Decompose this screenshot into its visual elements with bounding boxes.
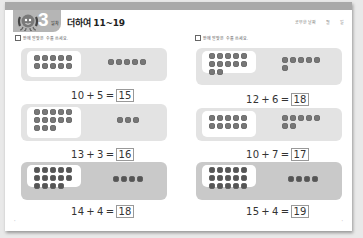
- ten-frame-dots: [34, 109, 73, 132]
- answer-box-icon: [195, 35, 201, 41]
- octopus-mascot-icon: [17, 11, 39, 31]
- left-page-marker: -: [14, 218, 15, 223]
- day-label: 일: [340, 19, 344, 25]
- left-instruction: 안에 알맞은 수를 쓰세요.: [15, 35, 68, 41]
- extra-dots: [113, 176, 152, 183]
- dot-panel-6: [196, 162, 342, 200]
- answer-box[interactable]: 17: [291, 148, 308, 161]
- worksheet-page: 3 일차 더하여 11~19 공부한 날짜 월 일 안에 알맞은 수를 쓰세요.…: [5, 2, 352, 231]
- instruction-text: 안에 알맞은 수를 쓰세요.: [23, 35, 68, 41]
- answer-box[interactable]: 19: [291, 205, 308, 218]
- answer-box[interactable]: 18: [291, 93, 308, 106]
- ten-frame-dots: [209, 53, 248, 76]
- extra-dots: [108, 59, 147, 66]
- equation-4: 12 + 6 = 18: [246, 93, 309, 106]
- equation-1: 10 + 5 = 15: [71, 89, 134, 102]
- month-label: 월: [326, 19, 330, 25]
- unit-suffix: 일차: [51, 20, 59, 26]
- page-title: 더하여 11~19: [67, 16, 125, 29]
- unit-badge: 3 일차: [13, 10, 61, 32]
- equation-3: 14 + 4 = 18: [71, 205, 134, 218]
- ten-frame-dots: [209, 115, 248, 130]
- equation-2: 13 + 3 = 16: [71, 148, 134, 161]
- equation-6: 15 + 4 = 19: [246, 205, 309, 218]
- study-date-area: 공부한 날짜 월 일: [295, 19, 344, 25]
- answer-box[interactable]: 18: [116, 205, 133, 218]
- answer-box-icon: [15, 35, 21, 41]
- extra-dots: [282, 57, 321, 72]
- extra-dots: [117, 117, 156, 124]
- extra-dots: [282, 115, 321, 130]
- equation-5: 10 + 7 = 17: [246, 148, 309, 161]
- answer-box[interactable]: 15: [116, 89, 133, 102]
- right-page-marker: -: [342, 218, 343, 223]
- dot-panel-1: [21, 48, 167, 81]
- dot-panel-3: [21, 162, 167, 200]
- top-bar: [5, 2, 352, 10]
- dot-panel-2: [21, 104, 167, 141]
- answer-box[interactable]: 16: [116, 148, 133, 161]
- ten-frame-dots: [34, 55, 73, 70]
- instruction-text: 안에 알맞은 수를 쓰세요.: [203, 35, 248, 41]
- extra-dots: [288, 176, 327, 183]
- dot-panel-5: [196, 108, 342, 141]
- dot-panel-4: [196, 48, 342, 85]
- unit-number: 3: [38, 9, 49, 31]
- right-instruction: 안에 알맞은 수를 쓰세요.: [195, 35, 248, 41]
- ten-frame-dots: [209, 167, 248, 190]
- ten-frame-dots: [34, 167, 73, 190]
- date-label: 공부한 날짜: [295, 19, 316, 25]
